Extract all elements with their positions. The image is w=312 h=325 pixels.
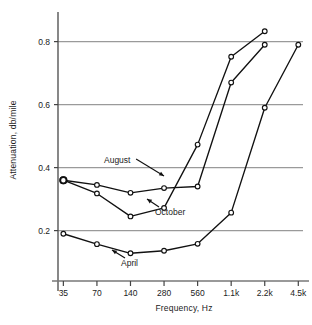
x-axis-ticks: 35701402805601.1k2.2k4.5k xyxy=(59,281,307,298)
series-august xyxy=(60,42,267,195)
x-tick-label: 35 xyxy=(59,288,69,298)
plot-area: 0.20.40.60.8 35701402805601.1k2.2k4.5k A… xyxy=(0,0,312,325)
x-tick-label: 560 xyxy=(191,288,205,298)
y-tick-label: 0.2 xyxy=(38,226,50,236)
data-point xyxy=(128,190,133,195)
x-tick-label: 1.1k xyxy=(223,288,240,298)
x-tick-label: 4.5k xyxy=(290,288,307,298)
gridlines xyxy=(58,42,303,231)
data-point xyxy=(229,80,234,85)
data-point xyxy=(95,183,100,188)
data-point xyxy=(262,105,267,110)
y-tick-label: 0.6 xyxy=(38,100,50,110)
data-point xyxy=(262,42,267,47)
annotation-label: October xyxy=(155,207,185,217)
attenuation-vs-frequency-chart: Attenuation, db/mile 0.20.40.60.8 357014… xyxy=(0,0,312,325)
y-tick-label: 0.4 xyxy=(38,163,50,173)
data-point xyxy=(128,214,133,219)
data-point xyxy=(229,54,234,59)
data-point xyxy=(95,242,100,247)
data-point xyxy=(60,177,66,183)
annotation-august: August xyxy=(104,155,164,176)
data-series-group xyxy=(60,29,300,256)
series-annotations: AugustOctoberApril xyxy=(104,155,185,268)
x-tick-label: 280 xyxy=(157,288,171,298)
annotation-october: October xyxy=(147,199,185,217)
x-tick-label: 70 xyxy=(92,288,102,298)
y-tick-label: 0.8 xyxy=(38,37,50,47)
data-point xyxy=(195,142,200,147)
data-point xyxy=(296,42,301,47)
data-point xyxy=(162,248,167,253)
data-point xyxy=(61,231,66,236)
y-axis-ticks: 0.20.40.60.8 xyxy=(38,37,58,236)
axis-lines xyxy=(52,12,309,291)
data-point xyxy=(229,210,234,215)
annotation-label: April xyxy=(121,258,138,268)
series-april xyxy=(61,42,301,255)
data-point xyxy=(95,191,100,196)
data-point xyxy=(195,184,200,189)
data-point xyxy=(195,241,200,246)
data-point xyxy=(262,29,267,34)
annotation-label: August xyxy=(104,155,131,165)
data-point xyxy=(128,251,133,256)
x-tick-label: 140 xyxy=(123,288,137,298)
data-point xyxy=(162,186,167,191)
x-tick-label: 2.2k xyxy=(257,288,274,298)
x-axis-title: Frequency, Hz xyxy=(58,303,310,313)
